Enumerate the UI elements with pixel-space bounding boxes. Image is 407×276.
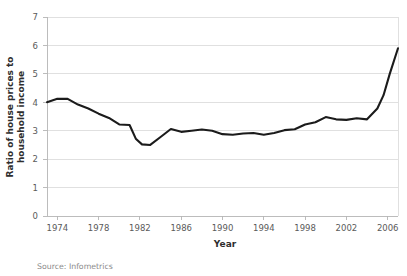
- gridlines: [47, 17, 398, 188]
- x-tick-label-1974: 1974: [46, 223, 68, 233]
- y-tick-label-2: 2: [33, 154, 38, 164]
- x-tick-label-2006: 2006: [377, 223, 399, 233]
- y-tick-marks: [43, 17, 47, 216]
- x-tick-marks: [57, 216, 387, 220]
- x-tick-label-1986: 1986: [170, 223, 192, 233]
- y-tick-label-5: 5: [33, 69, 38, 79]
- y-axis-title: Ratio of house prices to household incom…: [5, 57, 26, 178]
- x-tick-label-1982: 1982: [129, 223, 151, 233]
- y-tick-label-3: 3: [33, 126, 38, 136]
- x-axis-title: Year: [213, 239, 237, 249]
- x-tick-label-1978: 1978: [88, 223, 110, 233]
- house-price-income-ratio-line-chart: 7 6 5 4 3 2 1 0 1974 1978 1982 1986: [0, 0, 407, 276]
- y-tick-label-1: 1: [33, 183, 38, 193]
- y-tick-label-0: 0: [33, 211, 38, 221]
- y-tick-label-6: 6: [33, 41, 38, 51]
- x-tick-label-1990: 1990: [212, 223, 234, 233]
- y-tick-labels: 7 6 5 4 3 2 1 0: [33, 12, 38, 221]
- y-axis-title-line1: Ratio of house prices to: [5, 57, 15, 178]
- x-tick-label-1998: 1998: [294, 223, 316, 233]
- source-note: Source: Infometrics: [37, 262, 113, 271]
- chart-container: 7 6 5 4 3 2 1 0 1974 1978 1982 1986: [0, 0, 407, 276]
- y-axis-title-line2: household income: [16, 71, 26, 163]
- y-tick-label-4: 4: [33, 98, 38, 108]
- x-tick-label-2002: 2002: [336, 223, 358, 233]
- y-tick-label-7: 7: [33, 12, 38, 22]
- x-tick-label-1994: 1994: [253, 223, 275, 233]
- x-tick-labels: 1974 1978 1982 1986 1990 1994 1998 2002 …: [46, 223, 398, 233]
